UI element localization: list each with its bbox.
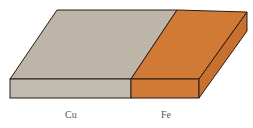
fe-front-face [131,79,199,98]
cu-label: Cu [65,109,77,120]
fe-label: Fe [161,109,171,120]
cu-front-face [10,79,131,98]
bimetal-strip-diagram [0,0,253,128]
